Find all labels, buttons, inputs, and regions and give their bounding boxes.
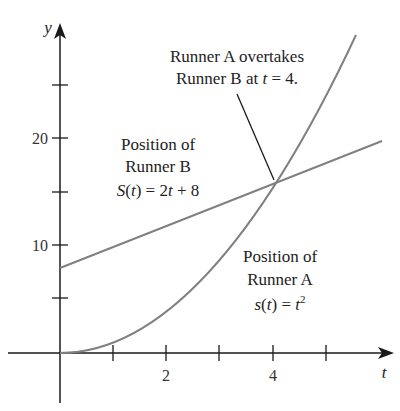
overtake-annotation: Runner A overtakes Runner B at t = 4.	[170, 47, 304, 88]
overtake-text-line2: Runner B at t = 4.	[176, 69, 298, 88]
y-axis: 10 20 y	[32, 18, 68, 403]
y-tick-label-10: 10	[32, 237, 48, 254]
runner-a-text-line2: Runner A	[247, 270, 313, 289]
x-tick-label-4: 4	[269, 367, 277, 384]
x-axis-label: t	[382, 363, 388, 382]
runner-b-annotation: Position of Runner B S(t) = 2t + 8	[117, 135, 199, 200]
runner-b-line	[60, 141, 382, 268]
runner-a-formula: s(t) = t2	[254, 293, 305, 314]
y-tick-label-20: 20	[32, 130, 48, 147]
x-tick-label-2: 2	[162, 367, 170, 384]
overtake-text-line1: Runner A overtakes	[170, 47, 304, 66]
runner-b-formula: S(t) = 2t + 8	[117, 181, 199, 200]
runner-b-text-line2: Runner B	[125, 157, 191, 176]
runner-a-annotation: Position of Runner A s(t) = t2	[243, 247, 317, 314]
x-axis: 2 4 t	[8, 345, 394, 384]
position-chart: 2 4 t 10 20 y Runner A overtakes Runner …	[0, 0, 400, 411]
overtake-pointer	[237, 94, 274, 180]
runner-b-text-line1: Position of	[121, 135, 195, 154]
y-axis-label: y	[42, 18, 52, 37]
runner-a-text-line1: Position of	[243, 247, 317, 266]
